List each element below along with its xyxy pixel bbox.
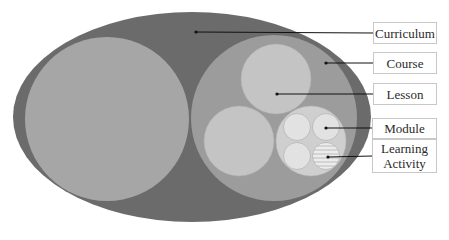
lesson-circle-left <box>204 106 274 176</box>
label-curriculum-text: Curriculum <box>375 26 435 41</box>
label-learning-activity: Learning Activity <box>372 139 437 173</box>
label-learning-activity-line1: Learning <box>381 141 428 156</box>
label-lesson-text: Lesson <box>387 87 424 102</box>
label-learning-activity-line2: Activity <box>383 156 426 171</box>
label-curriculum: Curriculum <box>373 22 437 44</box>
lesson-circle <box>241 44 311 114</box>
label-course-text: Course <box>387 56 424 71</box>
label-course: Course <box>373 52 437 74</box>
course-circle-left <box>25 37 189 201</box>
label-lesson: Lesson <box>373 83 437 105</box>
module-circle-1 <box>284 114 311 141</box>
learning-activity-circle <box>313 143 340 170</box>
module-circle-3 <box>284 143 311 170</box>
label-module-text: Module <box>384 121 424 136</box>
label-module: Module <box>372 118 437 139</box>
